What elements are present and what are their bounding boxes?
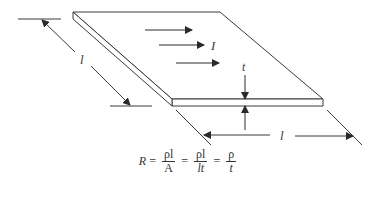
thin-film-plate [73,12,323,106]
equation-lhs: R [139,154,146,169]
fraction-numerator: ρl [162,148,175,162]
fraction-numerator: ρl [194,148,207,162]
fraction-numerator: ρ [226,148,236,162]
equals-sign: = [213,154,220,169]
bottom-length-dimension [176,110,362,145]
resistance-equation: R = ρl A = ρl lt = ρ t [0,148,378,174]
equals-sign: = [149,154,156,169]
current-label: I [210,38,216,53]
left-length-label: l [80,52,84,67]
fraction-denominator: lt [195,162,206,175]
fraction-rho-l-over-a: ρl A [162,148,175,174]
fraction-rho-l-over-lt: ρl lt [194,148,207,174]
fraction-denominator: t [228,162,235,175]
fraction-denominator: A [162,162,175,175]
fraction-rho-over-t: ρ t [226,148,236,174]
equals-sign: = [181,154,188,169]
bottom-length-label: l [280,128,284,143]
